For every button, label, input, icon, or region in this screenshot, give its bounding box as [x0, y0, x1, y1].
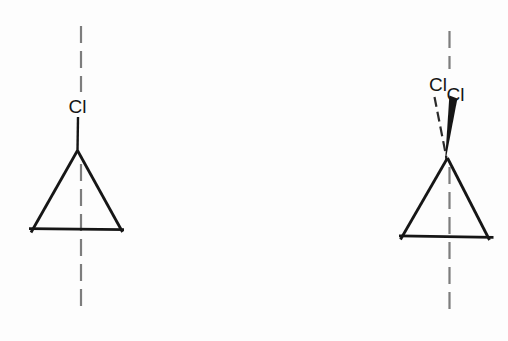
right-front-chlorine-label: Cl [447, 84, 465, 105]
left-cl-bond [78, 117, 79, 151]
left-chlorine-label: Cl [69, 96, 87, 117]
figure-background [0, 0, 508, 341]
left-triangle-base [29, 229, 124, 230]
chemical-structure-figure: Cl Cl Cl [0, 0, 508, 341]
figure-canvas: Cl Cl Cl [0, 0, 508, 341]
right-back-chlorine-label: Cl [429, 74, 447, 95]
right-triangle-base [399, 236, 494, 238]
